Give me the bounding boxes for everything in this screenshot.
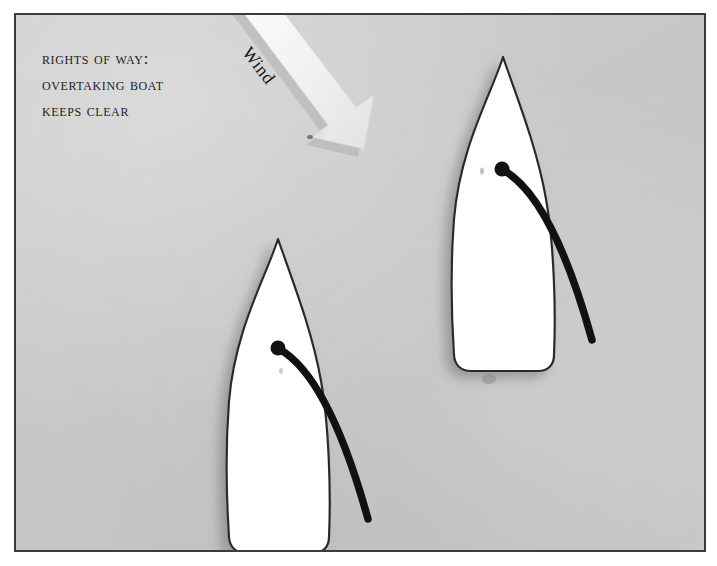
boat-slow-graphic xyxy=(434,43,614,383)
boat-slow-stern-smudge xyxy=(482,374,496,384)
illustration-plate: Rights of way: Overtaking boat keeps cle… xyxy=(14,13,706,552)
boat-slow: slow boat xyxy=(434,43,614,383)
wind-arrow-icon xyxy=(224,13,399,161)
boat-fast-smudge xyxy=(279,368,283,374)
wind-arrow-speck xyxy=(307,135,313,139)
boat-fast-mast-dot xyxy=(271,341,286,356)
figure-root: Rights of way: Overtaking boat keeps cle… xyxy=(0,0,717,566)
boat-slow-mast-dot xyxy=(495,162,510,177)
boat-fast: overtaking fast boat xyxy=(209,225,389,552)
boat-slow-smudge xyxy=(480,168,484,175)
boat-fast-hull xyxy=(227,239,330,552)
boat-fast-graphic xyxy=(209,225,389,552)
